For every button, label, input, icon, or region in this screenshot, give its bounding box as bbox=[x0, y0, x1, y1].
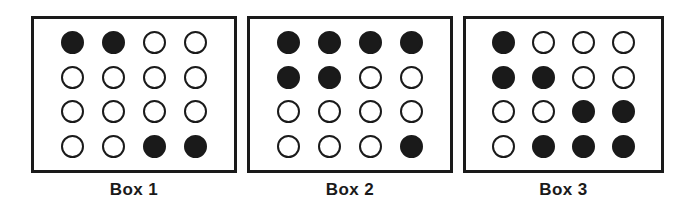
marble-cell bbox=[611, 29, 637, 55]
marble-cell bbox=[142, 64, 168, 90]
filled-marble-icon bbox=[318, 31, 341, 54]
marble-cell bbox=[490, 99, 516, 125]
marble-cell bbox=[530, 64, 556, 90]
empty-marble-icon bbox=[359, 135, 382, 158]
box-group-1: Box 1 bbox=[31, 16, 237, 198]
empty-marble-icon bbox=[572, 66, 595, 89]
empty-marble-icon bbox=[277, 100, 300, 123]
empty-marble-icon bbox=[102, 66, 125, 89]
empty-marble-icon bbox=[532, 100, 555, 123]
filled-marble-icon bbox=[532, 135, 555, 158]
marble-cell bbox=[100, 64, 126, 90]
empty-marble-icon bbox=[143, 31, 166, 54]
empty-marble-icon bbox=[61, 66, 84, 89]
marble-cell bbox=[530, 134, 556, 160]
marble-cell bbox=[59, 64, 85, 90]
empty-marble-icon bbox=[143, 66, 166, 89]
filled-marble-icon bbox=[492, 66, 515, 89]
marble-cell bbox=[142, 29, 168, 55]
empty-marble-icon bbox=[318, 135, 341, 158]
empty-marble-icon bbox=[184, 66, 207, 89]
box-frame-3 bbox=[463, 16, 664, 173]
box-label-2: Box 2 bbox=[326, 181, 374, 198]
box-frame-2 bbox=[247, 16, 453, 173]
box-group-2: Box 2 bbox=[247, 16, 453, 198]
marble-row bbox=[260, 25, 440, 60]
empty-marble-icon bbox=[318, 100, 341, 123]
empty-marble-icon bbox=[359, 66, 382, 89]
marble-cell bbox=[142, 134, 168, 160]
marble-cell bbox=[183, 29, 209, 55]
marble-cell bbox=[490, 29, 516, 55]
marble-cell bbox=[183, 99, 209, 125]
marble-boxes-figure: Box 1 Box 2 Box 3 bbox=[0, 0, 698, 213]
marble-cell bbox=[59, 29, 85, 55]
box-frame-1 bbox=[31, 16, 237, 173]
filled-marble-icon bbox=[277, 66, 300, 89]
empty-marble-icon bbox=[359, 100, 382, 123]
marble-cell bbox=[571, 134, 597, 160]
filled-marble-icon bbox=[184, 135, 207, 158]
marble-cell bbox=[275, 134, 301, 160]
marble-cell bbox=[399, 134, 425, 160]
marble-cell bbox=[59, 99, 85, 125]
marble-cell bbox=[611, 64, 637, 90]
filled-marble-icon bbox=[61, 31, 84, 54]
marble-cell bbox=[316, 29, 342, 55]
empty-marble-icon bbox=[400, 100, 423, 123]
marble-cell bbox=[611, 99, 637, 125]
marble-row bbox=[44, 95, 224, 130]
marble-row bbox=[44, 129, 224, 164]
marble-row bbox=[260, 129, 440, 164]
empty-marble-icon bbox=[612, 31, 635, 54]
empty-marble-icon bbox=[61, 135, 84, 158]
marble-cell bbox=[142, 99, 168, 125]
marble-cell bbox=[358, 99, 384, 125]
marble-row bbox=[476, 95, 651, 130]
empty-marble-icon bbox=[277, 135, 300, 158]
marble-cell bbox=[358, 64, 384, 90]
marble-cell bbox=[611, 134, 637, 160]
empty-marble-icon bbox=[184, 31, 207, 54]
marble-cell bbox=[571, 99, 597, 125]
marble-row bbox=[476, 60, 651, 95]
marble-cell bbox=[275, 64, 301, 90]
empty-marble-icon bbox=[400, 66, 423, 89]
marble-cell bbox=[275, 29, 301, 55]
filled-marble-icon bbox=[572, 100, 595, 123]
marble-cell bbox=[571, 29, 597, 55]
marble-cell bbox=[59, 134, 85, 160]
marble-cell bbox=[358, 29, 384, 55]
box-label-1: Box 1 bbox=[110, 181, 158, 198]
box-label-3: Box 3 bbox=[539, 181, 587, 198]
empty-marble-icon bbox=[612, 66, 635, 89]
empty-marble-icon bbox=[492, 100, 515, 123]
empty-marble-icon bbox=[532, 31, 555, 54]
marble-cell bbox=[100, 29, 126, 55]
filled-marble-icon bbox=[277, 31, 300, 54]
filled-marble-icon bbox=[143, 135, 166, 158]
filled-marble-icon bbox=[359, 31, 382, 54]
filled-marble-icon bbox=[400, 31, 423, 54]
marble-row bbox=[476, 129, 651, 164]
marble-cell bbox=[490, 64, 516, 90]
empty-marble-icon bbox=[102, 100, 125, 123]
filled-marble-icon bbox=[492, 31, 515, 54]
marble-cell bbox=[571, 64, 597, 90]
marble-row bbox=[260, 60, 440, 95]
filled-marble-icon bbox=[102, 31, 125, 54]
marble-cell bbox=[358, 134, 384, 160]
marble-cell bbox=[490, 134, 516, 160]
filled-marble-icon bbox=[400, 135, 423, 158]
filled-marble-icon bbox=[572, 135, 595, 158]
marble-cell bbox=[530, 29, 556, 55]
marble-cell bbox=[183, 64, 209, 90]
empty-marble-icon bbox=[61, 100, 84, 123]
marble-cell bbox=[275, 99, 301, 125]
marble-row bbox=[260, 95, 440, 130]
marble-cell bbox=[530, 99, 556, 125]
filled-marble-icon bbox=[612, 135, 635, 158]
marble-row bbox=[44, 25, 224, 60]
marble-cell bbox=[183, 134, 209, 160]
empty-marble-icon bbox=[572, 31, 595, 54]
